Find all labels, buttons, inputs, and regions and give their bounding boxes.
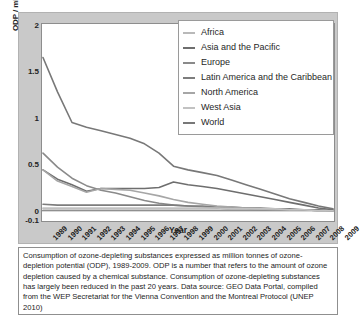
legend-label: Latin America and the Caribbean [201,73,332,82]
legend-label: World [201,118,224,127]
y-tick-label: 1.5 [28,67,39,76]
y-tick-label: -0.1 [25,216,39,225]
legend-swatch-icon [183,47,195,49]
legend-swatch-icon [183,122,195,124]
legend-item-europe[interactable]: Europe [183,55,328,70]
legend-item-world[interactable]: World [183,115,328,130]
y-tick-label: 0 [35,206,39,215]
legend-item-asia-and-the-pacific[interactable]: Asia and the Pacific [183,40,328,55]
legend-item-west-asia[interactable]: West Asia [183,100,328,115]
legend-item-north-america[interactable]: North America [183,85,328,100]
legend-swatch-icon [183,32,195,34]
legend-label: North America [201,88,258,97]
legend-item-africa[interactable]: Africa [183,25,328,40]
legend-label: Africa [201,28,224,37]
chart-container: ODP / million tonnes -0.100.511.52 Year … [18,12,338,244]
figure-caption: Consumption of ozone-depleting substance… [18,247,338,315]
y-tick-label: 1 [35,113,39,122]
legend-label: Europe [201,58,230,67]
y-tick-label: 2 [35,20,39,29]
y-axis-title: ODP / million tonnes [11,0,20,53]
series-line-asia-and-the-pacific [43,170,333,210]
legend-swatch-icon [183,62,195,64]
y-tick-label: 0.5 [28,160,39,169]
x-tick-label: 2009 [343,224,361,242]
legend-swatch-icon [183,92,195,94]
legend-label: Asia and the Pacific [201,43,280,52]
legend-label: West Asia [201,103,241,112]
legend-swatch-icon [183,107,195,109]
legend-item-latin-america-and-the-caribbean[interactable]: Latin America and the Caribbean [183,70,328,85]
legend-swatch-icon [183,77,195,79]
chart-legend: AfricaAsia and the PacificEuropeLatin Am… [178,20,334,135]
